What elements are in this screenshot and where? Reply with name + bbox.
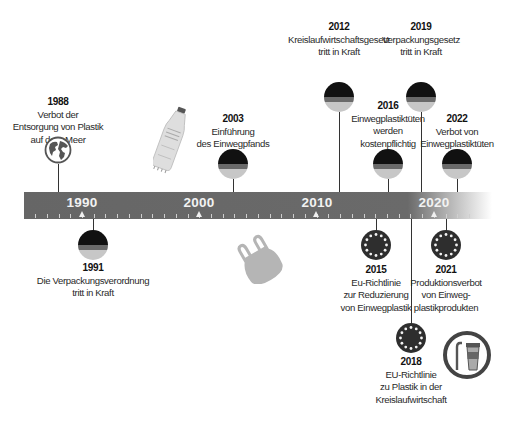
- year-tick: [211, 214, 212, 218]
- event-2022-connector: [457, 179, 458, 192]
- eu-stars: [431, 230, 461, 260]
- event-2021: 2021 Produktionsverbot von Einweg- plast…: [410, 264, 481, 314]
- year-tick: [141, 214, 142, 218]
- year-tick: [364, 214, 365, 218]
- eu-stars: [361, 230, 391, 260]
- german-flag-icon: [442, 149, 472, 179]
- year-tick: [105, 214, 106, 218]
- decade-marker-2020: [431, 211, 437, 217]
- event-2022: 2022 Verbot von Einwegplastiktüten: [420, 113, 494, 151]
- event-1988-connector: [58, 164, 59, 192]
- year-tick: [129, 214, 130, 218]
- eu-flag-icon: [361, 230, 391, 260]
- year-tick: [152, 214, 153, 218]
- year-tick: [164, 214, 165, 218]
- event-2015: 2015 Eu-Richtlinie zur Reduzierung von E…: [341, 264, 412, 314]
- event-2019: 2019 Verpackungsgesetz tritt in Kraft: [382, 21, 460, 59]
- event-2016-connector: [388, 179, 389, 192]
- year-tick: [70, 214, 71, 218]
- german-flag-icon: [373, 149, 403, 179]
- globe-icon: [44, 136, 72, 164]
- event-2003-connector: [233, 179, 234, 192]
- year-tick: [457, 214, 458, 218]
- year-tick: [35, 214, 36, 218]
- eu-flag-icon: [431, 230, 461, 260]
- german-flag-icon: [78, 230, 108, 260]
- year-tick: [117, 214, 118, 218]
- axis-year-2010: 2010: [301, 195, 332, 210]
- year-tick: [59, 214, 60, 218]
- decade-marker-2010: [313, 211, 319, 217]
- year-tick: [446, 214, 447, 218]
- year-tick: [47, 214, 48, 218]
- event-2003: 2003 Einführung des Einwegpfands: [197, 113, 270, 151]
- year-tick: [281, 214, 282, 218]
- year-tick: [375, 214, 376, 218]
- axis-year-2020: 2020: [418, 195, 449, 210]
- year-tick: [352, 214, 353, 218]
- german-flag-icon: [406, 82, 436, 112]
- year-tick: [176, 214, 177, 218]
- decade-marker-1990: [79, 211, 85, 217]
- year-tick: [399, 214, 400, 218]
- eu-flag-icon: [396, 323, 426, 353]
- event-2012-connector: [339, 112, 340, 192]
- year-tick: [258, 214, 259, 218]
- german-flag-icon: [218, 149, 248, 179]
- plastic-bag-icon: [233, 234, 289, 284]
- year-tick: [387, 214, 388, 218]
- year-tick: [188, 214, 189, 218]
- axis-year-1990: 1990: [66, 195, 97, 210]
- year-tick: [293, 214, 294, 218]
- year-tick: [270, 214, 271, 218]
- year-tick: [328, 214, 329, 218]
- year-tick: [246, 214, 247, 218]
- event-2012: 2012 Kreislaufwirtschaftsgesetz tritt in…: [288, 21, 390, 59]
- event-2018: 2018 EU-Richtlinie zu Plastik in der Kre…: [375, 356, 446, 406]
- german-flag-icon: [324, 82, 354, 112]
- year-tick: [234, 214, 235, 218]
- straw-and-cup-icon: [442, 330, 492, 380]
- year-tick: [223, 214, 224, 218]
- year-tick: [469, 214, 470, 218]
- event-1991: 1991 Die Verpackungsverordnung tritt in …: [37, 262, 149, 300]
- year-tick: [94, 214, 95, 218]
- decade-marker-2000: [196, 211, 202, 217]
- year-tick: [305, 214, 306, 218]
- eu-stars: [396, 323, 426, 353]
- plastic-bottle-icon: [153, 104, 189, 174]
- year-tick: [340, 214, 341, 218]
- year-tick: [422, 214, 423, 218]
- axis-year-2000: 2000: [183, 195, 214, 210]
- year-tick: [410, 214, 411, 218]
